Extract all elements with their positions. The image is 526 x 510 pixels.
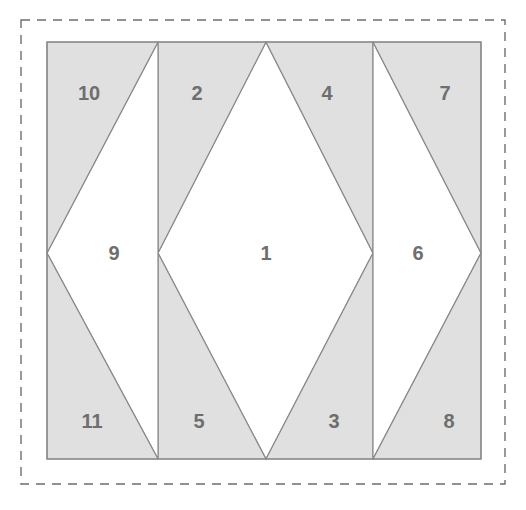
region-label-7: 7 bbox=[439, 82, 450, 104]
region-label-1: 1 bbox=[260, 242, 271, 264]
tessellation-diagram: 1234567891011 bbox=[0, 0, 526, 510]
region-label-4: 4 bbox=[321, 82, 333, 104]
figure-canvas: 1234567891011 bbox=[0, 0, 526, 510]
region-label-9: 9 bbox=[108, 242, 119, 264]
region-label-2: 2 bbox=[191, 82, 202, 104]
region-label-10: 10 bbox=[78, 82, 100, 104]
region-label-5: 5 bbox=[193, 410, 204, 432]
region-label-11: 11 bbox=[81, 410, 102, 432]
region-label-3: 3 bbox=[328, 410, 339, 432]
region-label-6: 6 bbox=[412, 242, 423, 264]
region-label-8: 8 bbox=[443, 410, 454, 432]
